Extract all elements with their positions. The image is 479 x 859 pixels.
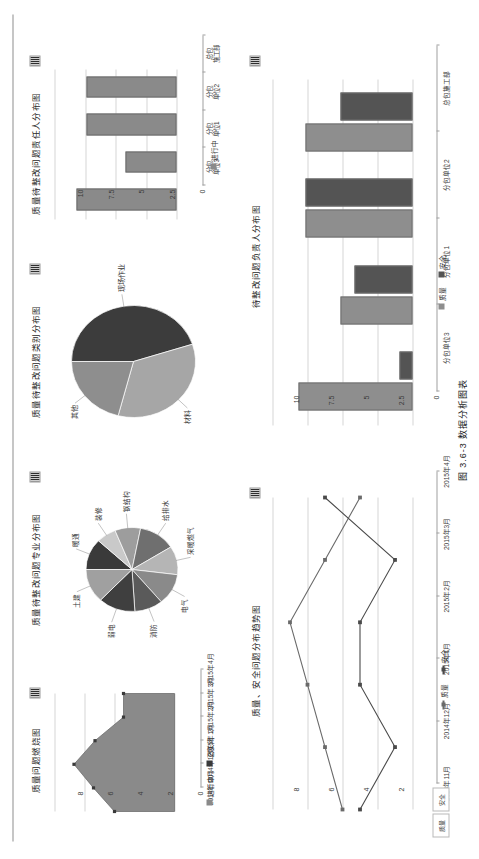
x-tick-label: 总包施工部 — [440, 2, 450, 175]
legend-item: 安全 — [438, 648, 448, 674]
panel-header: 质量问题燃烧图 — [28, 685, 44, 835]
y-tick-label: 8 — [293, 787, 300, 813]
chart-handle-icon[interactable] — [29, 55, 40, 66]
x-tick — [436, 532, 439, 533]
panel-burndown: 质量问题燃烧图 024682014年11月2014年12月2015年1月2015… — [28, 685, 228, 835]
legend-swatch — [210, 163, 216, 169]
x-tick — [436, 217, 439, 218]
panel-specialty-pie: 质量待整改问题专业分布图 暖通装修钢结构给排水采暖燃气电气消防弱电土建 — [28, 469, 228, 669]
chart-title: 质量待整改问题类别分布图 — [28, 261, 40, 461]
data-point — [72, 762, 75, 765]
data-point — [393, 558, 397, 562]
rotated-page-wrapper: 质量问题燃烧图 024682014年11月2014年12月2015年1月2015… — [0, 0, 479, 859]
pie-leader-line — [126, 513, 127, 528]
panel-header: 待整改问题负责人分布图 — [248, 53, 264, 459]
plot-area-category-pie: 现场作业材料其他 — [46, 261, 224, 461]
data-point — [358, 495, 362, 499]
pie-label-给排水: 给排水 — [160, 500, 169, 521]
chart-title: 待整改问题负责人分布图 — [248, 53, 260, 459]
data-point — [358, 620, 362, 624]
pie-label-土建: 土建 — [72, 593, 81, 607]
chart-title: 质量问题燃烧图 — [28, 685, 40, 835]
y-tick-label: 2.5 — [398, 395, 405, 421]
side-tab-quality[interactable]: 质量 — [432, 813, 449, 837]
chart-handle-icon[interactable] — [29, 471, 40, 482]
x-axis-line — [200, 669, 201, 787]
y-tick-label: 5 — [138, 189, 145, 215]
x-tick — [436, 595, 439, 596]
chart-handle-icon[interactable] — [29, 687, 40, 698]
panel-header: 质量、安全问题分布趋势图 — [248, 485, 264, 835]
pie-leader-line — [148, 607, 154, 621]
bar-质量 — [305, 123, 412, 151]
series-line-质量 — [290, 497, 360, 809]
bar-安全 — [305, 178, 412, 206]
chart-title: 质量待整改问题责任人分布图 — [28, 53, 40, 253]
pie-leader-line — [75, 395, 86, 403]
gridline — [272, 79, 273, 425]
data-point — [323, 495, 327, 499]
bar-质量 — [298, 382, 412, 410]
data-point — [358, 682, 362, 686]
chart-handle-icon[interactable] — [249, 55, 260, 66]
x-tick — [436, 44, 439, 45]
y-tick-label: 2 — [167, 791, 174, 817]
data-point — [93, 739, 96, 742]
pie-leader-line — [176, 557, 191, 560]
legend-item: 安全 — [436, 254, 446, 277]
x-tick-label: 2015年3月 — [440, 505, 450, 561]
side-tab-safety[interactable]: 安全 — [432, 787, 449, 811]
pie-leader-line — [157, 523, 165, 535]
legend-label: 安全 — [436, 254, 446, 268]
x-tick — [436, 782, 439, 783]
x-tick — [200, 762, 203, 763]
legend-swatch — [442, 700, 444, 709]
pie-label-采暖燃气: 采暖燃气 — [185, 527, 194, 555]
legend-label: 安全 — [438, 648, 448, 662]
y-tick-label: 2.5 — [168, 189, 175, 215]
panel-header: 质量待整改问题责任人分布图 — [28, 53, 44, 253]
p-spec-pie: 暖通装修钢结构给排水采暖燃气电气消防弱电土建 — [46, 469, 221, 669]
legend-item: 质量 — [438, 683, 448, 709]
pie-leader-line — [98, 523, 106, 535]
bar-分包单位2 — [86, 114, 176, 136]
series-area-进行中 — [74, 693, 175, 811]
legend-swatch — [442, 665, 444, 674]
pie-label-其他: 其他 — [70, 405, 79, 419]
legend-item: 进行中 — [204, 775, 214, 805]
bar-总包施工部 — [86, 76, 176, 98]
pie-label-弱电: 弱电 — [106, 624, 115, 638]
legend-burndown: 进行中已关闭 — [204, 736, 214, 805]
bar-分包单位3 — [76, 189, 176, 211]
y-tick-label: 7.5 — [328, 395, 335, 421]
x-tick — [200, 739, 203, 740]
panel-responsible-all: 待整改问题负责人分布图 02.557.510分包单位3分包单位1分包单位2总包施… — [248, 53, 460, 459]
legend-swatch — [438, 271, 444, 277]
pie-leader-line — [76, 548, 90, 553]
legend-item: 进行中 — [208, 139, 218, 169]
trend-lines — [272, 497, 412, 809]
legend-label: 进行中 — [208, 139, 218, 160]
legend-item: 已关闭 — [204, 736, 214, 766]
y-tick-label: 0 — [199, 189, 206, 215]
bar-安全 — [340, 92, 412, 120]
x-tick-label: 2015年2月 — [440, 568, 450, 624]
panel-category-pie: 质量待整改问题类别分布图 现场作业材料其他 — [28, 261, 228, 461]
panel-trend: 质量、安全问题分布趋势图 024682014年11月2014年12月2015年1… — [248, 485, 460, 835]
y-tick-label: 10 — [77, 189, 84, 215]
chart-handle-icon[interactable] — [29, 263, 40, 274]
plot-area-responsible-all: 02.557.510分包单位3分包单位1分包单位2总包施工部 — [272, 79, 412, 425]
x-tick-label: 总包施工部 — [206, 16, 219, 91]
bar-安全 — [399, 351, 412, 379]
x-tick — [202, 34, 205, 35]
legend-label: 质量 — [436, 286, 446, 300]
pie-label-装修: 装修 — [93, 507, 102, 521]
pie-leader-line — [76, 585, 90, 591]
y-tick-label: 2 — [398, 787, 405, 813]
chart-handle-icon[interactable] — [249, 487, 260, 498]
y-tick-label: 0 — [433, 395, 440, 421]
pie-label-暖通: 暖通 — [71, 532, 80, 546]
legend-swatch — [438, 303, 444, 309]
data-point — [288, 620, 292, 624]
x-tick — [436, 470, 439, 471]
